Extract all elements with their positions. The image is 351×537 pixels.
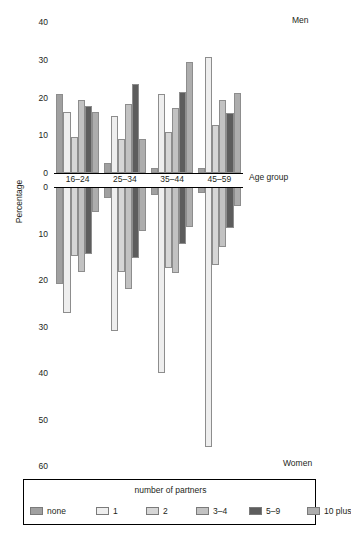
x-axis-category-label: 45–59 <box>196 174 243 184</box>
legend: number of partners none123–45–910 plus <box>23 479 316 525</box>
legend-swatch-icon <box>96 507 109 515</box>
legend-label: 1 <box>113 506 118 516</box>
legend-swatch-icon <box>146 507 159 515</box>
x-axis-category-label: 35–44 <box>149 174 196 184</box>
legend-swatch-icon <box>249 507 262 515</box>
axis-line-men <box>54 173 243 174</box>
legend-label: 10 plus <box>324 506 351 516</box>
x-axis-category-label: 16–24 <box>54 174 101 184</box>
legend-label: 2 <box>163 506 168 516</box>
legend-label: 5–9 <box>266 506 280 516</box>
x-axis-category-label: 25–34 <box>101 174 148 184</box>
legend-title: number of partners <box>24 486 317 495</box>
legend-label: none <box>47 506 66 516</box>
legend-swatch-icon <box>196 507 209 515</box>
legend-label: 3–4 <box>213 506 227 516</box>
legend-swatch-icon <box>307 507 320 515</box>
axis-line-women <box>54 187 243 188</box>
legend-swatch-icon <box>30 507 43 515</box>
